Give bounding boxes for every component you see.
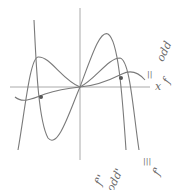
label-right-bars: || bbox=[147, 70, 152, 79]
curve-medium bbox=[18, 57, 139, 150]
marked-point-right bbox=[119, 76, 123, 80]
marked-point-left bbox=[39, 95, 43, 99]
label-bottom-bars: ||| bbox=[143, 157, 151, 166]
axis-x-label: x bbox=[155, 80, 161, 93]
function-graph bbox=[0, 0, 178, 190]
